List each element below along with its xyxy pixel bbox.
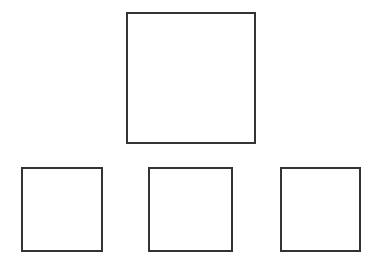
bottom-right-box: [280, 167, 361, 252]
bottom-left-box: [21, 167, 103, 252]
top-box: [126, 12, 256, 144]
bottom-middle-box: [148, 167, 233, 252]
